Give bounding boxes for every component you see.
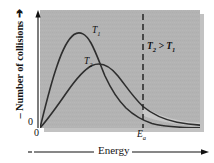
curve-label-t1: T1 xyxy=(92,25,101,37)
x-axis-label: Energy xyxy=(98,144,130,156)
x-axis-origin-tick-label: 0 xyxy=(34,127,39,138)
y-axis-origin-tick-label: 0 xyxy=(28,116,33,127)
temperature-inequality-note: T2 > T1 xyxy=(147,41,175,53)
y-axis-label: – Number of collisions ➔ xyxy=(11,1,27,127)
x-axis-arrowhead-icon xyxy=(201,149,209,155)
activation-energy-label: Ea xyxy=(137,129,146,141)
figure-container: – Number of collisions ➔ Energy 0 0 T1 T… xyxy=(0,0,214,163)
curve-label-t2: T2 xyxy=(84,56,93,68)
plot-panel-background xyxy=(40,10,200,128)
y-axis-arrowhead-icon xyxy=(35,10,40,18)
collision-energy-plot xyxy=(0,0,214,163)
y-axis-label-text: – Number of collisions ➔ xyxy=(13,9,25,118)
